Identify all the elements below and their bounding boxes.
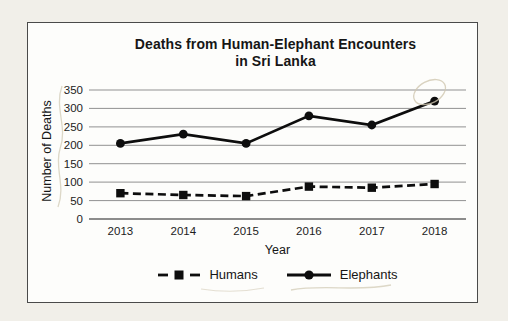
pencil-oval-mark: [409, 74, 449, 109]
chart-title-line-1: Deaths from Human-Elephant Encounters: [88, 36, 463, 53]
x-axis-title: Year: [89, 243, 466, 257]
marker-elephants-2017: [367, 121, 376, 130]
marker-elephants-2015: [242, 139, 251, 148]
y-tick-label: 250: [64, 121, 83, 133]
pencil-squiggle-humans: [201, 288, 264, 291]
marker-humans-2015: [242, 192, 250, 200]
marker-elephants-2018: [430, 97, 439, 106]
legend-item-elephants: Elephants: [286, 267, 398, 282]
legend-item-humans: Humans: [157, 267, 257, 282]
marker-humans-2018: [430, 180, 438, 188]
marker-humans-2016: [305, 182, 313, 190]
chart-legend: Humans Elephants: [89, 267, 466, 282]
y-tick-label: 0: [77, 213, 83, 225]
marker-elephants-2013: [116, 139, 125, 148]
series-line-humans: [120, 184, 434, 196]
x-tick-label: 2018: [422, 225, 448, 237]
marker-humans-2013: [116, 189, 124, 197]
pencil-squiggle-y-axis: [58, 86, 63, 207]
legend-label-humans: Humans: [209, 267, 257, 282]
marker-elephants-2014: [179, 130, 188, 139]
humans-legend-marker: [157, 269, 201, 281]
x-tick-label: 2016: [296, 225, 322, 237]
pencil-squiggle-elephants: [291, 285, 391, 290]
x-tick-label: 2015: [233, 225, 259, 237]
x-tick-label: 2017: [359, 225, 385, 237]
y-axis-title: Number of Deaths: [40, 100, 54, 201]
marker-humans-2017: [368, 184, 376, 192]
legend-label-elephants: Elephants: [340, 267, 398, 282]
x-tick-label: 2013: [108, 225, 134, 237]
y-tick-label: 300: [64, 102, 83, 114]
elephants-legend-marker: [286, 269, 332, 281]
series-line-elephants: [120, 101, 434, 143]
x-tick-label: 2014: [171, 225, 197, 237]
marker-humans-2014: [179, 191, 187, 199]
y-tick-label: 100: [64, 176, 83, 188]
chart-figure: 0501001502002503003502013201420152016201…: [27, 22, 478, 303]
y-tick-label: 200: [64, 139, 83, 151]
chart-title: Deaths from Human-Elephant Encounters in…: [88, 36, 463, 69]
page-background: 0501001502002503003502013201420152016201…: [0, 0, 508, 321]
marker-elephants-2016: [305, 111, 314, 120]
y-tick-label: 350: [64, 84, 83, 96]
y-tick-label: 50: [70, 195, 83, 207]
chart-title-line-2: in Sri Lanka: [88, 53, 463, 70]
y-tick-label: 150: [64, 158, 83, 170]
